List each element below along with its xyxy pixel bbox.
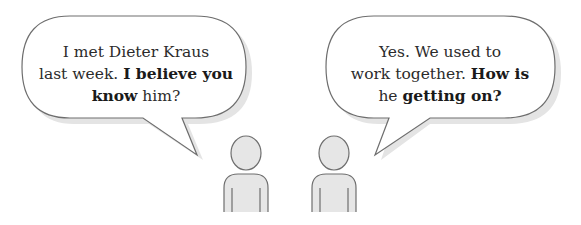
left-bubble-line-2: last week. I believe you [30,63,242,85]
left-bubble-line-1: I met Dieter Kraus [30,41,242,63]
left-bubble-text: I met Dieter Kraus last week. I believe … [30,41,242,107]
right-bubble-line-2: work together. How is [330,63,550,85]
right-bubble-line-3: he getting on? [330,85,550,107]
text-run: work together. [351,65,471,83]
text-run: Yes. We used to [379,43,501,61]
text-run-bold: I believe you [123,64,233,83]
left-bubble-line-3: know him? [30,85,242,107]
text-run: him? [137,87,180,105]
text-run-bold: getting on? [402,86,501,105]
text-run-bold: know [92,86,138,105]
text-run-bold: How is [471,64,529,83]
text-run: I met Dieter Kraus [63,43,210,61]
text-run: last week. [39,65,123,83]
left-person-icon [224,136,268,212]
dialogue-scene [0,0,581,225]
right-bubble-text: Yes. We used to work together. How is he… [330,41,550,107]
right-bubble-line-1: Yes. We used to [330,41,550,63]
right-person-icon [312,136,356,212]
text-run: he [378,87,402,105]
